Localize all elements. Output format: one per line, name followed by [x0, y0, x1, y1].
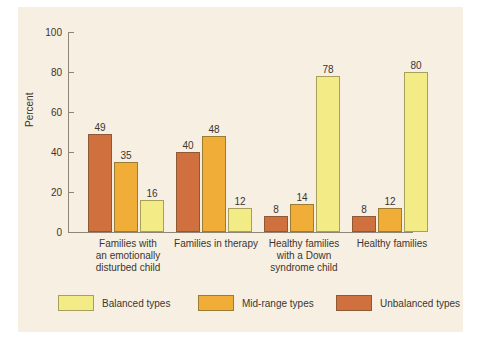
legend-item-midrange[interactable]: Mid-range types	[198, 292, 314, 314]
category-line: disturbed child	[70, 262, 186, 274]
bar-value-label: 8	[273, 204, 279, 215]
chart-legend: Balanced types Mid-range types Unbalance…	[58, 292, 438, 314]
y-tick-label: 20	[51, 187, 62, 198]
y-axis-title: Percent	[24, 93, 35, 127]
bar-unbalanced[interactable]: 8	[264, 216, 288, 232]
bar-midrange[interactable]: 48	[202, 136, 226, 232]
y-axis-line	[68, 32, 69, 232]
legend-swatch-icon	[58, 295, 94, 311]
bar-unbalanced[interactable]: 8	[352, 216, 376, 232]
bar-balanced[interactable]: 80	[404, 72, 428, 232]
bar-value-label: 12	[384, 196, 395, 207]
bar-group-2: 40 48 12 Families in therapy	[176, 32, 256, 232]
y-tick-label: 80	[51, 67, 62, 78]
bar-value-label: 80	[410, 60, 421, 71]
chart-figure: Percent 0 20 40 60 80 100 49	[18, 7, 463, 332]
bar-value-label: 48	[208, 124, 219, 135]
category-line: Healthy families	[334, 238, 450, 250]
bar-midrange[interactable]: 14	[290, 204, 314, 232]
bar-value-label: 8	[361, 204, 367, 215]
bar-unbalanced[interactable]: 49	[88, 134, 112, 232]
bar-value-label: 35	[120, 150, 131, 161]
legend-swatch-icon	[336, 295, 372, 311]
legend-swatch-icon	[198, 295, 234, 311]
category-line: syndrome child	[246, 262, 362, 274]
bar-unbalanced[interactable]: 40	[176, 152, 200, 232]
legend-label: Unbalanced types	[380, 298, 460, 309]
legend-label: Mid-range types	[242, 298, 314, 309]
bar-value-label: 12	[234, 196, 245, 207]
y-tick-label: 40	[51, 147, 62, 158]
legend-item-unbalanced[interactable]: Unbalanced types	[336, 292, 460, 314]
bar-group-4: 8 12 80 Healthy families	[352, 32, 432, 232]
bar-value-label: 16	[146, 188, 157, 199]
y-tick-label: 0	[56, 227, 62, 238]
category-label-4: Healthy families	[334, 238, 450, 250]
bar-value-label: 78	[322, 64, 333, 75]
bar-midrange[interactable]: 12	[378, 208, 402, 232]
bar-group-3: 8 14 78 Healthy families with a Down syn…	[264, 32, 344, 232]
legend-label: Balanced types	[102, 298, 170, 309]
bar-balanced[interactable]: 16	[140, 200, 164, 232]
category-line: an emotionally	[70, 250, 186, 262]
y-tick-label: 100	[45, 27, 62, 38]
bar-balanced[interactable]: 78	[316, 76, 340, 232]
bar-value-label: 49	[94, 122, 105, 133]
bar-value-label: 40	[182, 140, 193, 151]
bar-value-label: 14	[296, 192, 307, 203]
bar-balanced[interactable]: 12	[228, 208, 252, 232]
x-axis-line	[68, 232, 413, 233]
y-tick-label: 60	[51, 107, 62, 118]
category-line: with a Down	[246, 250, 362, 262]
legend-item-balanced[interactable]: Balanced types	[58, 292, 170, 314]
plot-area: Percent 0 20 40 60 80 100 49	[68, 32, 413, 232]
bar-midrange[interactable]: 35	[114, 162, 138, 232]
bar-group-1: 49 35 16 Families with an emotionally di…	[88, 32, 168, 232]
